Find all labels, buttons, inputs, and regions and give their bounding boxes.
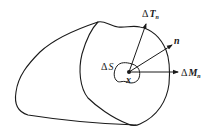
normal-vector-arrow — [129, 45, 172, 72]
point-symbol: x — [126, 74, 131, 85]
traction-vector-arrow — [129, 24, 146, 72]
traction-symbol: T — [149, 8, 155, 19]
area-symbol: S — [108, 61, 113, 72]
normal-label: n — [174, 36, 180, 46]
traction-subscript: n — [156, 14, 159, 20]
moment-subscript: n — [197, 73, 200, 79]
area-delta: Δ — [101, 61, 107, 72]
traction-label: ΔTn — [142, 9, 159, 20]
body-outline — [16, 22, 137, 125]
area-element-label: ΔS — [101, 62, 113, 72]
moment-symbol: M — [188, 67, 197, 78]
moment-delta: Δ — [181, 67, 187, 78]
point-label: x — [126, 75, 131, 85]
moment-label: ΔMn — [181, 68, 201, 79]
normal-symbol: n — [174, 35, 180, 46]
cut-face-outline — [80, 22, 170, 126]
traction-delta: Δ — [142, 8, 148, 19]
